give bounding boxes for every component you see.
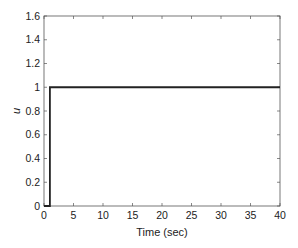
y-tick-label: 1.2 <box>25 57 40 69</box>
y-tick-label: 0 <box>34 200 40 212</box>
plot-series <box>44 87 280 206</box>
x-tick-label: 35 <box>245 209 257 221</box>
y-tick-label: 1 <box>34 81 40 93</box>
series-line-u <box>44 87 280 206</box>
x-tick-label: 5 <box>71 209 77 221</box>
x-tick-label: 10 <box>97 209 109 221</box>
x-tick-label: 15 <box>127 209 139 221</box>
y-tick-label: 0.4 <box>25 152 40 164</box>
y-tick-label: 0.8 <box>25 105 40 117</box>
axis-ticks <box>44 16 280 206</box>
y-tick-label: 1.6 <box>25 10 40 22</box>
x-tick-label: 0 <box>41 209 47 221</box>
x-axis-label: Time (sec) <box>136 226 188 238</box>
x-tick-label: 20 <box>156 209 168 221</box>
plot-area-border <box>44 16 280 206</box>
x-tick-label: 25 <box>186 209 198 221</box>
x-tick-labels: 0510152025303540 <box>41 209 286 221</box>
axes-frame <box>44 16 280 206</box>
y-axis-label: u <box>10 108 22 114</box>
y-tick-labels: 00.20.40.60.811.21.41.6 <box>25 10 40 212</box>
x-tick-label: 40 <box>274 209 286 221</box>
y-tick-label: 0.2 <box>25 176 40 188</box>
y-tick-label: 0.6 <box>25 128 40 140</box>
y-tick-label: 1.4 <box>25 33 40 45</box>
step-response-chart: 0510152025303540 00.20.40.60.811.21.41.6… <box>0 0 298 248</box>
x-tick-label: 30 <box>215 209 227 221</box>
